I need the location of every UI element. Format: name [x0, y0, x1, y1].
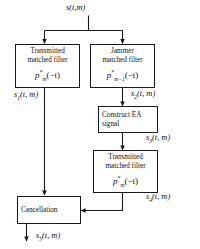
box-construct-ea-signal[interactable]: Construct EA signal [98, 106, 158, 133]
box5-line1: Cancellation [18, 206, 80, 215]
box4-formula: p*m(−t) [94, 172, 157, 191]
box-transmitted-matched-filter-2[interactable]: Transmitted matched filter p*m(−t) [93, 150, 158, 193]
box-transmitted-matched-filter-1[interactable]: Transmitted matched filter p*m(−t) [15, 44, 80, 88]
box2-formula: p*m−1(−t) [91, 66, 154, 85]
s5-args: (t, m) [42, 231, 60, 240]
box2-formula-sub: m−1 [114, 76, 125, 82]
box4-line2: matched filter [94, 162, 157, 171]
box1-line2: matched filter [16, 56, 79, 65]
box-cancellation[interactable]: Cancellation [17, 196, 81, 224]
s4-args: (t, m) [152, 192, 170, 201]
signal-flow-diagram: s(t,m) Transmitted matched filter p*m(−t… [0, 0, 200, 249]
signal-label-s5: s5(t, m) [36, 231, 60, 244]
box1-formula: p*m(−t) [16, 66, 79, 85]
signal-label-s3: s3(t, m) [146, 133, 170, 146]
box1-formula-arg: (−t) [46, 70, 60, 80]
box3-line1: Construct EA [99, 111, 157, 120]
box1-line1: Transmitted [16, 47, 79, 56]
box2-line1: Jammer [91, 47, 154, 56]
input-signal-text: s(t,m) [66, 3, 85, 12]
box3-line2: signal [99, 120, 157, 129]
signal-label-s4: s4(t, m) [146, 192, 170, 205]
box4-line1: Transmitted [94, 153, 157, 162]
input-signal-label: s(t,m) [66, 3, 85, 13]
s2-args: (t, m) [137, 89, 155, 98]
box-jammer-matched-filter[interactable]: Jammer matched filter p*m−1(−t) [90, 44, 155, 88]
s1-args: (t, m) [20, 90, 38, 99]
signal-label-s1: s1(t, m) [14, 90, 38, 103]
signal-label-s2: s2(t, m) [131, 89, 155, 102]
box2-formula-sup: * [111, 69, 114, 75]
box2-formula-arg: (−t) [125, 70, 139, 80]
box1-formula-sup: * [39, 69, 42, 75]
box4-formula-arg: (−t) [124, 176, 138, 186]
box4-formula-sup: * [117, 175, 120, 181]
edge-s4-to-cancellation [81, 193, 123, 211]
box2-line2: matched filter [91, 56, 154, 65]
s3-args: (t, m) [152, 133, 170, 142]
